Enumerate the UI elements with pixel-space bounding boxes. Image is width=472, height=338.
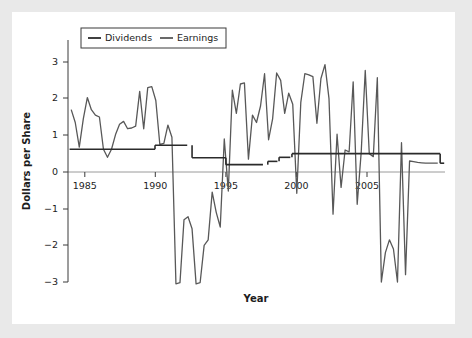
- y-tick-label-2: 2: [52, 92, 58, 103]
- earnings-dividends-chart: 3 2 1 0 −1 −2 −3 1985 1990 1995 2000 200…: [0, 0, 472, 338]
- legend-label-dividends: Dividends: [105, 32, 152, 43]
- y-tick-label-neg1: −1: [44, 203, 58, 214]
- legend-label-earnings: Earnings: [177, 32, 218, 43]
- y-axis-tick-labels: 3 2 1 0 −1 −2 −3: [44, 56, 58, 287]
- y-tick-label-3: 3: [52, 56, 58, 67]
- y-tick-label-1: 1: [52, 129, 58, 140]
- x-tick-label-1990: 1990: [143, 180, 167, 191]
- x-tick-label-1985: 1985: [73, 180, 97, 191]
- plot-area-background: [68, 40, 445, 282]
- y-axis-title: Dollars per Share: [21, 112, 32, 210]
- x-axis-title: Year: [243, 293, 269, 304]
- x-tick-label-1995: 1995: [214, 180, 238, 191]
- y-tick-label-0: 0: [52, 166, 58, 177]
- y-axis-ticks: [63, 62, 68, 282]
- chart-legend: Dividends Earnings: [81, 28, 226, 48]
- y-tick-label-neg3: −3: [44, 276, 58, 287]
- screenshot-root: 3 2 1 0 −1 −2 −3 1985 1990 1995 2000 200…: [0, 0, 472, 338]
- y-tick-label-neg2: −2: [44, 239, 58, 250]
